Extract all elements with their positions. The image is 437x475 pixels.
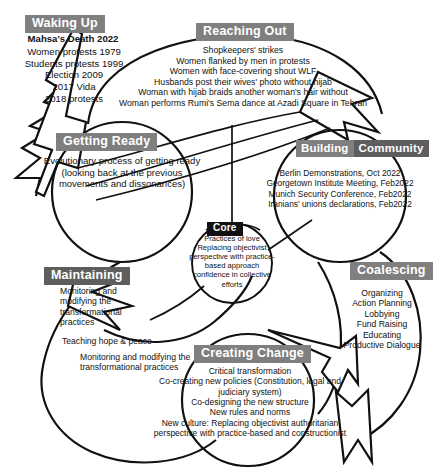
- maintaining-secondary-teaching: Teaching hope & peace: [62, 336, 202, 346]
- waking-up-headline: Mahsa's Death 2022: [8, 33, 138, 45]
- section-label-getting-ready: Getting Ready: [56, 133, 157, 151]
- building-community-label-part1: Building: [296, 140, 354, 157]
- section-label-reaching-out: Reaching Out: [196, 23, 294, 41]
- getting-ready-body: Evolutionary process of getting ready (l…: [42, 155, 202, 190]
- section-label-building-community: BuildingCommunity: [296, 140, 429, 157]
- building-community-items: Berlin Demonstrations, Oct 2022 Georgeto…: [248, 168, 432, 209]
- building-community-label-part2: Community: [354, 140, 429, 157]
- maintaining-body: Monitoring and modifying the transformat…: [60, 286, 132, 328]
- core-body: Practices of love Replacing objectivist …: [186, 234, 278, 289]
- section-label-maintaining: Maintaining: [44, 267, 130, 285]
- reaching-out-items: Shopkeepers' strikes Women flanked by me…: [118, 45, 368, 109]
- creating-change-items: Critical transformation Co-creating new …: [150, 366, 350, 439]
- coalescing-items: Organizing Action Planning Lobbying Fund…: [330, 288, 434, 351]
- core-to-maintaining-connector: [150, 286, 204, 320]
- section-label-coalescing: Coalescing: [350, 262, 433, 280]
- section-label-creating-change: Creating Change: [194, 345, 311, 363]
- section-label-waking-up: Waking Up: [25, 15, 105, 33]
